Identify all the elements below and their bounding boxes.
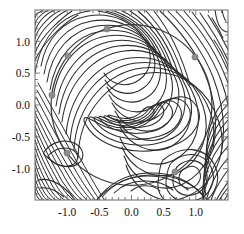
x-tick-label: 0.0 (124, 206, 139, 218)
critical-point-marker (65, 53, 71, 59)
critical-point-marker (172, 169, 178, 175)
contour-figure: 1.0 0.5 0.0 -0.5 -1.0 -1.0 -0.5 0.0 0.5 … (0, 0, 244, 234)
critical-point-marker (49, 92, 55, 98)
plot-canvas: 1.0 0.5 0.0 -0.5 -1.0 -1.0 -0.5 0.0 0.5 … (0, 0, 244, 234)
y-tick-label: 0.0 (16, 99, 31, 111)
x-tick-label: -0.5 (90, 206, 108, 218)
y-tick-label: 1.0 (16, 36, 31, 48)
x-tick-label: 1.0 (189, 206, 204, 218)
critical-point-marker (64, 150, 70, 156)
y-tick-label: 0.5 (16, 67, 31, 79)
y-tick-label: -0.5 (12, 131, 30, 143)
critical-point-marker (104, 26, 110, 32)
critical-point-marker (192, 54, 198, 60)
x-tick-label: -1.0 (58, 206, 76, 218)
x-tick-label: 0.5 (156, 206, 171, 218)
y-tick-label: -1.0 (12, 163, 30, 175)
